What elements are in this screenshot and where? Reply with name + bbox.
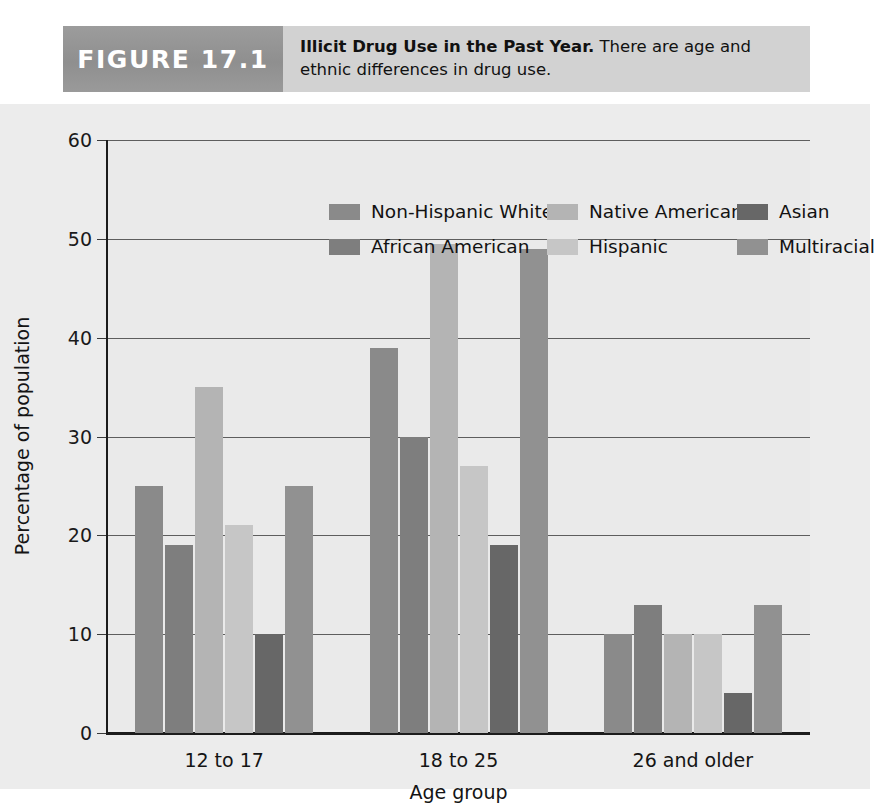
figure-number-label: FIGURE 17.1	[77, 45, 269, 74]
legend-label: Asian	[779, 201, 830, 222]
y-axis-title: Percentage of population	[11, 317, 33, 555]
legend-swatch-icon	[547, 239, 578, 255]
figure-number-band: FIGURE 17.1	[63, 26, 283, 92]
legend-label: Hispanic	[589, 236, 668, 257]
legend-swatch-icon	[547, 204, 578, 220]
x-axis-title: Age group	[410, 781, 508, 803]
legend-label: Non-Hispanic White	[371, 201, 553, 222]
bar	[430, 244, 458, 733]
legend-item: Non-Hispanic White	[329, 201, 547, 222]
bar	[520, 249, 548, 733]
bar	[400, 437, 428, 734]
legend-swatch-icon	[329, 204, 360, 220]
y-tick-label: 20	[68, 524, 92, 546]
legend-swatch-icon	[737, 239, 768, 255]
bar	[460, 466, 488, 733]
legend-item: Hispanic	[547, 236, 737, 257]
chart-legend: Non-Hispanic WhiteNative AmericanAsianAf…	[329, 194, 875, 264]
x-axis-group-label: 26 and older	[633, 749, 753, 771]
y-tick-label: 10	[68, 623, 92, 645]
bar	[285, 486, 313, 733]
bar	[604, 634, 632, 733]
y-tick-label: 30	[68, 426, 92, 448]
legend-label: Native American	[589, 201, 743, 222]
figure-caption-box: Illicit Drug Use in the Past Year. There…	[283, 26, 810, 92]
x-axis-group-label: 18 to 25	[419, 749, 499, 771]
bar	[225, 525, 253, 733]
chart-canvas: Percentage of population 0102030405060 1…	[0, 104, 870, 789]
bar	[754, 605, 782, 733]
bar	[255, 634, 283, 733]
bar	[135, 486, 163, 733]
legend-item: Asian	[737, 201, 875, 222]
y-tick-label: 60	[68, 129, 92, 151]
figure-header: FIGURE 17.1 Illicit Drug Use in the Past…	[63, 26, 810, 92]
figure-caption-text: Illicit Drug Use in the Past Year. There…	[300, 35, 796, 82]
y-tick-label: 0	[80, 722, 92, 744]
bar	[165, 545, 193, 733]
legend-item: Multiracial	[737, 236, 875, 257]
legend-label: African American	[371, 236, 529, 257]
x-axis-group-label: 12 to 17	[184, 749, 264, 771]
legend-label: Multiracial	[779, 236, 875, 257]
bar	[490, 545, 518, 733]
bar	[634, 605, 662, 733]
y-tick-label: 50	[68, 228, 92, 250]
legend-swatch-icon	[737, 204, 768, 220]
bar	[724, 693, 752, 733]
plot-area: 0102030405060 12 to 1718 to 2526 and old…	[107, 140, 810, 733]
legend-item: African American	[329, 236, 547, 257]
bar	[370, 348, 398, 733]
legend-item: Native American	[547, 201, 737, 222]
figure-caption-title: Illicit Drug Use in the Past Year.	[300, 37, 594, 56]
y-tick-label: 40	[68, 327, 92, 349]
bar	[664, 634, 692, 733]
legend-swatch-icon	[329, 239, 360, 255]
bar	[195, 387, 223, 733]
bar	[694, 634, 722, 733]
